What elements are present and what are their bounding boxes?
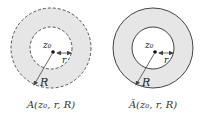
closed-annulus-figure: z₀ r R Ā(z₀, r, R) — [102, 0, 204, 125]
inner-radius-label: r — [62, 55, 66, 65]
inner-radius-label: r — [164, 55, 168, 65]
outer-radius-label: R — [142, 76, 150, 89]
center-label: z₀ — [43, 40, 51, 50]
open-annulus-caption: A(z₀, r, R) — [0, 99, 102, 110]
closed-annulus-caption: Ā(z₀, r, R) — [102, 99, 204, 110]
center-point — [51, 50, 55, 54]
outer-radius-label: R — [40, 76, 48, 89]
center-label: z₀ — [145, 40, 153, 50]
open-annulus-figure: z₀ r R A(z₀, r, R) — [0, 0, 102, 125]
center-point — [153, 50, 157, 54]
